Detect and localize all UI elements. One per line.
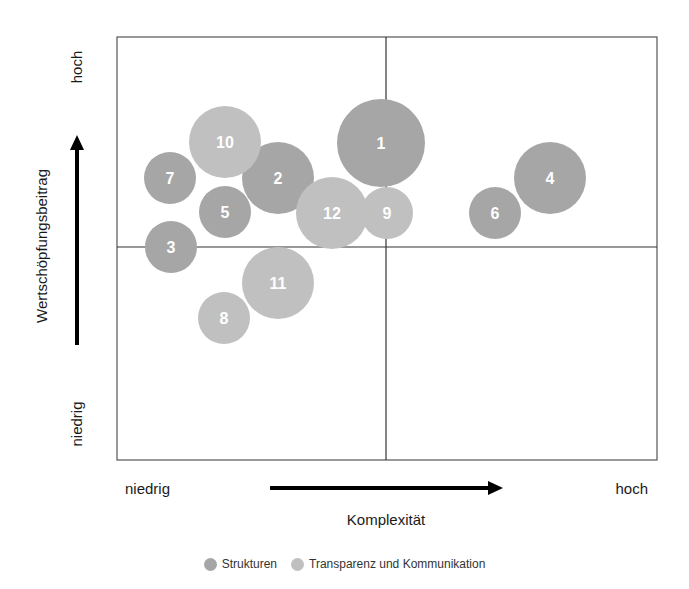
x-axis-title: Komplexität bbox=[347, 511, 426, 528]
bubble-label: 5 bbox=[221, 204, 230, 221]
bubble-9: 9 bbox=[361, 187, 413, 239]
bubble-4: 4 bbox=[514, 142, 586, 214]
legend-swatch-icon bbox=[291, 558, 304, 571]
legend-item-transparenz[interactable]: Transparenz und Kommunikation bbox=[291, 557, 485, 571]
bubble-5: 5 bbox=[199, 186, 251, 238]
y-axis-low-label: niedrig bbox=[68, 401, 85, 446]
bubble-label: 4 bbox=[546, 170, 555, 187]
bubble-label: 8 bbox=[220, 310, 229, 327]
bubble-label: 10 bbox=[216, 134, 234, 151]
bubble-12: 12 bbox=[296, 177, 368, 249]
x-axis-high-label: hoch bbox=[615, 480, 648, 497]
bubble-11: 11 bbox=[242, 247, 314, 319]
legend: Strukturen Transparenz und Kommunikation bbox=[0, 557, 689, 571]
legend-swatch-icon bbox=[204, 558, 217, 571]
bubble-label: 1 bbox=[377, 135, 386, 152]
bubble-label: 2 bbox=[274, 170, 283, 187]
bubble-10: 10 bbox=[189, 106, 261, 178]
legend-label: Strukturen bbox=[222, 557, 277, 571]
y-axis-arrow-icon bbox=[70, 135, 84, 345]
bubble-1: 1 bbox=[337, 99, 425, 187]
bubble-label: 12 bbox=[323, 205, 341, 222]
x-axis-low-label: niedrig bbox=[125, 480, 170, 497]
bubble-3: 3 bbox=[145, 221, 197, 273]
bubble-label: 3 bbox=[167, 239, 176, 256]
bubble-6: 6 bbox=[469, 187, 521, 239]
x-axis-arrow-icon bbox=[270, 481, 503, 495]
y-axis-high-label: hoch bbox=[68, 51, 85, 84]
bubble-label: 7 bbox=[166, 170, 175, 187]
legend-item-strukturen[interactable]: Strukturen bbox=[204, 557, 277, 571]
bubble-label: 9 bbox=[383, 205, 392, 222]
bubble-8: 8 bbox=[198, 292, 250, 344]
bubble-chart: 123456789101112 hoch Wertschöpfungsbeitr… bbox=[0, 0, 689, 589]
bubble-7: 7 bbox=[144, 152, 196, 204]
legend-label: Transparenz und Kommunikation bbox=[309, 557, 485, 571]
bubble-label: 11 bbox=[270, 275, 287, 292]
bubble-label: 6 bbox=[491, 205, 500, 222]
y-axis-title: Wertschöpfungsbeitrag bbox=[33, 169, 50, 323]
bubbles-layer: 123456789101112 bbox=[144, 99, 586, 344]
